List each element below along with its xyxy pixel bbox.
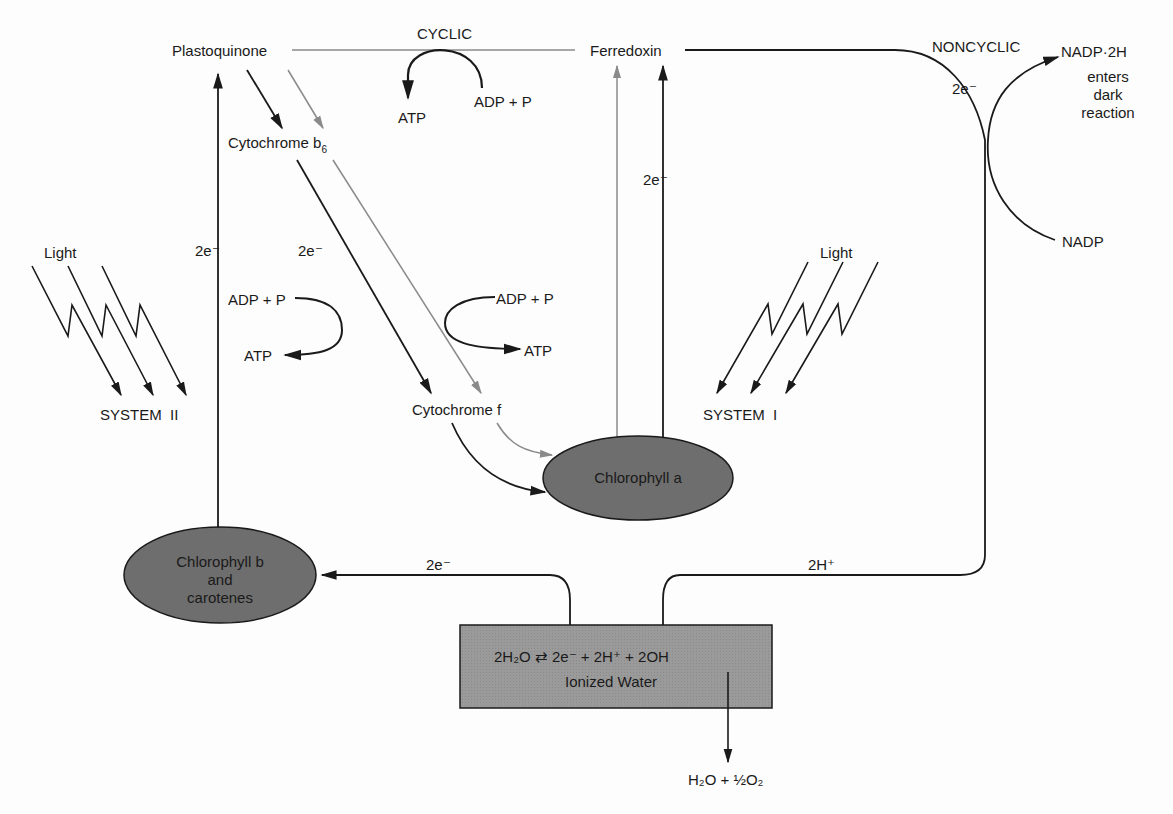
chlorophyll-b-label-2: and <box>207 571 232 588</box>
noncyclic-electron-path <box>663 50 985 625</box>
cyclic-adp-label: ADP + P <box>474 93 532 110</box>
system-ii-label: SYSTEM II <box>100 406 178 423</box>
cytochrome-f-label: Cytochrome f <box>412 401 502 418</box>
noncyclic-2e-label: 2e⁻ <box>952 80 977 97</box>
nadp-reduction-arrow <box>988 57 1058 240</box>
light-psii-zigzags <box>32 266 186 395</box>
chlorophyll-b-label-3: carotenes <box>187 589 253 606</box>
ferredoxin-2e-label: 2e⁻ <box>643 171 668 188</box>
cytb6-to-cytf-arrow <box>297 160 431 393</box>
photosynthesis-light-reaction-diagram: Plastoquinone CYCLIC Ferredoxin NONCYCLI… <box>0 0 1173 814</box>
two-h-plus-label: 2H⁺ <box>808 556 835 573</box>
light-psi-label: Light <box>820 244 853 261</box>
phosphorylation-left-arrow <box>285 298 342 355</box>
nadp-label: NADP <box>1062 233 1104 250</box>
ionized-water-box <box>460 625 772 708</box>
dark-label: dark <box>1093 86 1123 103</box>
diagram-canvas: Plastoquinone CYCLIC Ferredoxin NONCYCLI… <box>0 0 1173 814</box>
chlorophyll-b-label-1: Chlorophyll b <box>176 553 264 570</box>
cyclic-label: CYCLIC <box>417 25 472 42</box>
pq-to-cytb6-arrow <box>247 70 282 128</box>
cyclic-atp-label: ATP <box>398 109 426 126</box>
cyclic-pq-to-cytb6-arrow <box>288 70 323 128</box>
ferredoxin-label: Ferredoxin <box>590 42 662 59</box>
system-i-label: SYSTEM I <box>703 406 777 423</box>
noncyclic-label: NONCYCLIC <box>932 38 1021 55</box>
chlorophyll-a-label: Chlorophyll a <box>594 469 682 486</box>
cyclic-cytf-to-chla-arrow <box>497 423 552 455</box>
cytochrome-b6-label: Cytochrome b6 <box>228 134 327 155</box>
plastoquinone-label: Plastoquinone <box>172 42 267 59</box>
adp-left-label: ADP + P <box>228 291 286 308</box>
adp-right-label: ADP + P <box>496 290 554 307</box>
light-psii-label: Light <box>44 244 77 261</box>
water-electron-arrow <box>322 575 570 625</box>
psii-2e-label: 2e⁻ <box>195 242 220 259</box>
cytf-to-chla-arrow <box>452 423 545 492</box>
water-equation-label: 2H₂O ⇄ 2e⁻ + 2H⁺ + 2OH <box>494 648 669 665</box>
cyclic-cytb6-to-cytf-arrow <box>333 160 481 393</box>
products-label: H₂O + ½O₂ <box>688 771 764 788</box>
nadph-label: NADP·2H <box>1061 43 1127 60</box>
cyclic-atp-arrow <box>408 50 482 98</box>
atp-left-label: ATP <box>244 347 272 364</box>
cytb6-2e-label: 2e⁻ <box>298 242 323 259</box>
water-2e-label: 2e⁻ <box>426 556 451 573</box>
enters-label: enters <box>1087 68 1129 85</box>
ionized-water-label: Ionized Water <box>565 673 657 690</box>
reaction-label: reaction <box>1081 104 1134 121</box>
light-psi-zigzags <box>717 262 878 393</box>
atp-right-label: ATP <box>524 342 552 359</box>
